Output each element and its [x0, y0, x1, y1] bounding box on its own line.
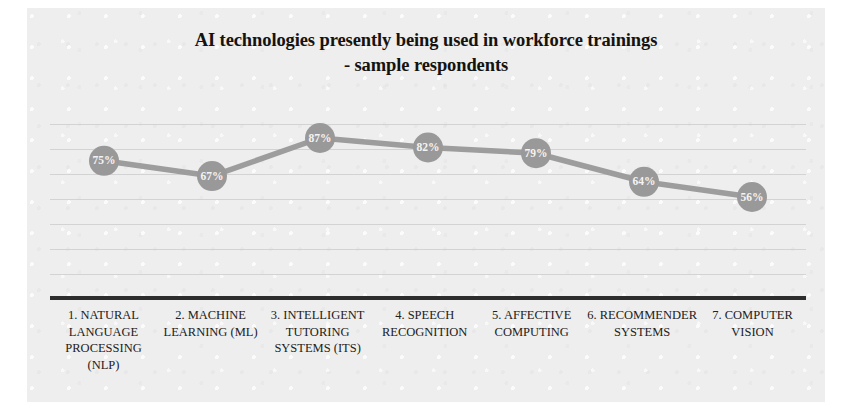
- data-point-label: 79%: [525, 147, 548, 159]
- category-label-3: 3. INTELLIGENTTUTORINGSYSTEMS (ITS): [264, 307, 371, 373]
- category-label-line: RECOGNITION: [373, 324, 476, 341]
- category-label-line: VISION: [701, 324, 804, 341]
- category-label-5: 5. AFFECTIVECOMPUTING: [478, 307, 585, 373]
- category-label-line: TUTORING: [266, 324, 369, 341]
- category-label-7: 7. COMPUTERVISION: [699, 307, 806, 373]
- category-label-line: LEARNING (ML): [159, 324, 262, 341]
- category-label-line: 3. INTELLIGENT: [266, 307, 369, 324]
- data-point-label: 82%: [417, 141, 440, 153]
- category-label-6: 6. RECOMMENDERSYSTEMS: [585, 307, 699, 373]
- category-label-line: 1. NATURAL: [52, 307, 155, 324]
- category-label-line: 2. MACHINE: [159, 307, 262, 324]
- data-point-label: 75%: [93, 154, 116, 166]
- category-label-line: 5. AFFECTIVE: [480, 307, 583, 324]
- data-point-markers: 75%67%87%82%79%64%56%: [89, 123, 767, 212]
- category-label-2: 2. MACHINELEARNING (ML): [157, 307, 264, 373]
- category-label-line: COMPUTING: [480, 324, 583, 341]
- category-label-line: 7. COMPUTER: [701, 307, 804, 324]
- category-label-line: PROCESSING: [52, 340, 155, 357]
- data-point-label: 87%: [309, 132, 332, 144]
- chart-figure: AI technologies presently being used in …: [0, 0, 861, 413]
- category-label-line: SYSTEMS: [587, 324, 697, 341]
- category-label-line: 4. SPEECH: [373, 307, 476, 324]
- category-label-1: 1. NATURALLANGUAGEPROCESSING(NLP): [50, 307, 157, 373]
- category-axis-labels: 1. NATURALLANGUAGEPROCESSING(NLP)2. MACH…: [50, 307, 806, 373]
- category-label-4: 4. SPEECHRECOGNITION: [371, 307, 478, 373]
- category-label-line: SYSTEMS (ITS): [266, 340, 369, 357]
- category-label-line: (NLP): [52, 357, 155, 374]
- category-label-line: LANGUAGE: [52, 324, 155, 341]
- data-point-label: 64%: [633, 175, 656, 187]
- data-point-label: 67%: [201, 170, 224, 182]
- category-label-line: 6. RECOMMENDER: [587, 307, 697, 324]
- data-point-label: 56%: [741, 191, 764, 203]
